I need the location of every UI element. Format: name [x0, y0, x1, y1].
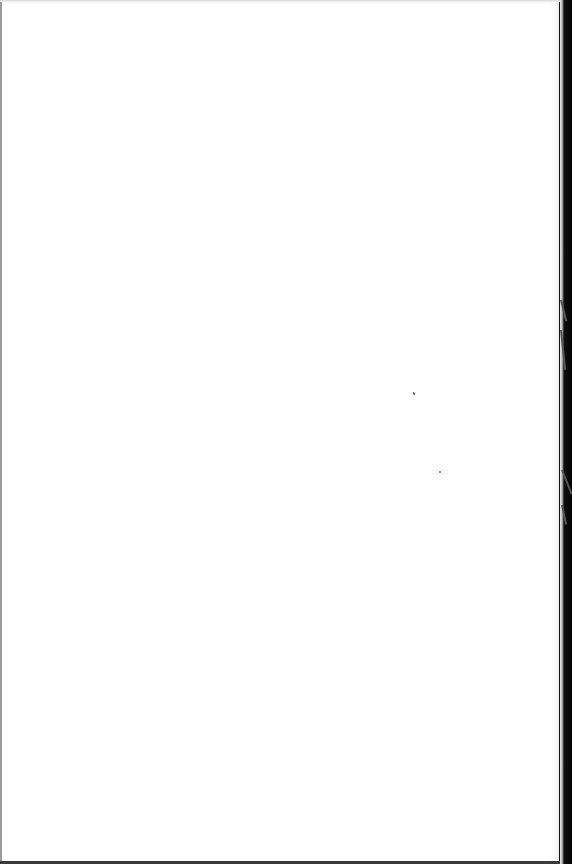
dust-speck [439, 471, 441, 473]
page-top-edge [0, 0, 560, 2]
blank-paper-page [1, 1, 559, 861]
scanned-page-image [0, 0, 572, 864]
scanner-dark-margin [560, 0, 572, 864]
page-left-edge [0, 0, 2, 864]
